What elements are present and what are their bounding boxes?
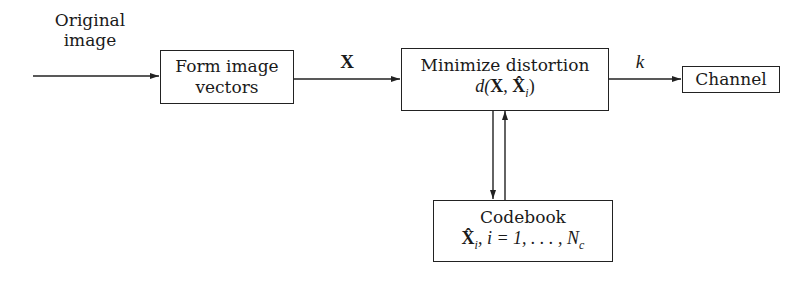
codebook-block: Codebook X̂i, i = 1, . . . , Nc [433, 200, 613, 262]
input-label-line1: Original [40, 10, 140, 30]
edge-label-k: k [630, 52, 650, 72]
form-block-line1: Form image [175, 56, 278, 77]
formula-d: d( [475, 76, 490, 96]
input-label-line2: image [40, 30, 140, 50]
edge-label-x: X [332, 52, 362, 72]
minimize-formula: d(X, X̂i) [475, 76, 534, 104]
codebook-formula: X̂i, i = 1, . . . , Nc [462, 228, 585, 256]
form-block-line2: vectors [195, 77, 258, 98]
codebook-range: , i = 1, . . . , N [478, 228, 579, 248]
formula-xhat: X̂ [512, 76, 525, 96]
codebook-xhat: X̂ [462, 228, 475, 248]
channel-label: Channel [695, 69, 767, 90]
minimize-line1: Minimize distortion [421, 55, 590, 76]
channel-block: Channel [682, 66, 780, 93]
codebook-sub-c: c [579, 237, 584, 251]
formula-x: X [490, 76, 503, 96]
formula-close: ) [529, 76, 535, 96]
form-image-vectors-block: Form image vectors [160, 50, 294, 104]
codebook-line1: Codebook [480, 207, 566, 228]
formula-sep: , [503, 76, 512, 96]
input-label: Original image [40, 10, 140, 50]
minimize-distortion-block: Minimize distortion d(X, X̂i) [401, 48, 609, 111]
